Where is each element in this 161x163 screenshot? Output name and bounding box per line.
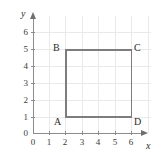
y-axis-line	[33, 18, 34, 133]
x-tick-label-6: 6	[125, 137, 137, 147]
y-tick-3	[31, 83, 35, 84]
gridline-horizontal-y6	[33, 32, 151, 33]
x-tick-label-1: 1	[43, 137, 55, 147]
vertex-label-d: D	[134, 116, 141, 127]
y-tick-label-5: 5	[18, 44, 28, 54]
x-tick-5	[115, 131, 116, 135]
y-tick-label-1: 1	[18, 112, 28, 122]
coordinate-plane-figure: y x 0 1 2 3 4 5 6 0 1 2 3 4 5 6 B C A D	[0, 0, 161, 163]
y-axis-arrow-icon	[30, 12, 36, 19]
vertex-label-a: A	[54, 116, 61, 127]
y-tick-4	[31, 66, 35, 67]
square-edge-ab-left	[65, 49, 67, 117]
gridline-horizontal-y3	[33, 83, 151, 84]
square-edge-cd-right	[131, 49, 133, 117]
y-tick-label-6: 6	[18, 27, 28, 37]
square-edge-bc-top	[65, 49, 132, 51]
x-tick-label-5: 5	[109, 137, 121, 147]
x-tick-label-3: 3	[76, 137, 88, 147]
x-tick-4	[98, 131, 99, 135]
y-tick-label-2: 2	[18, 95, 28, 105]
square-edge-ad-bottom	[65, 116, 132, 118]
vertex-label-c: C	[134, 42, 141, 53]
x-tick-label-0: 0	[27, 137, 39, 147]
x-tick-label-4: 4	[92, 137, 104, 147]
gridline-vertical-x1	[49, 16, 50, 133]
x-axis-arrow-icon	[141, 130, 148, 136]
x-tick-2	[65, 131, 66, 135]
y-tick-label-3: 3	[18, 78, 28, 88]
gridline-horizontal-y4	[33, 66, 151, 67]
x-tick-label-2: 2	[59, 137, 71, 147]
y-axis-label: y	[21, 9, 25, 19]
x-tick-3	[82, 131, 83, 135]
x-tick-6	[131, 131, 132, 135]
vertex-label-b: B	[53, 42, 60, 53]
y-tick-5	[31, 49, 35, 50]
gridline-horizontal-y2	[33, 100, 151, 101]
x-tick-1	[49, 131, 50, 135]
y-tick-label-0: 0	[18, 128, 28, 138]
y-tick-1	[31, 117, 35, 118]
y-tick-label-4: 4	[18, 61, 28, 71]
y-tick-2	[31, 100, 35, 101]
x-axis-label: x	[146, 141, 150, 151]
gridline-vertical-x7	[148, 16, 149, 133]
y-tick-6	[31, 32, 35, 33]
